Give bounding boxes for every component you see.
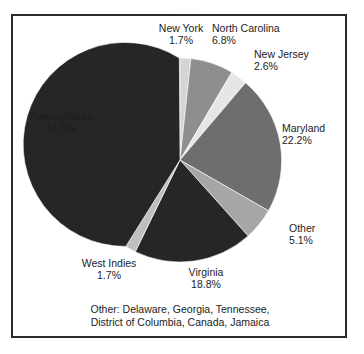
slice-label-north-carolina-value: 6.8% bbox=[212, 34, 304, 46]
slice-label-west-indies-value: 1.7% bbox=[66, 269, 152, 281]
slice-label-maryland: Maryland 22.2% bbox=[282, 122, 348, 147]
slice-label-maryland-name: Maryland bbox=[282, 122, 348, 134]
slice-label-virginia: Virginia 18.8% bbox=[170, 266, 242, 291]
chart-footnote-line-1: Other: Delaware, Georgia, Tennessee, bbox=[24, 303, 336, 316]
slice-label-west-indies-name: West Indies bbox=[66, 257, 152, 269]
slice-label-pennsylvania-name: Pennsylvania bbox=[16, 110, 106, 122]
slice-label-new-york-value: 1.7% bbox=[148, 34, 214, 46]
pie-slices bbox=[23, 42, 281, 262]
pie-chart-figure: ........ New York 1.7% North Carolina bbox=[0, 0, 364, 354]
slice-label-maryland-value: 22.2% bbox=[282, 134, 348, 146]
slice-label-virginia-value: 18.8% bbox=[170, 278, 242, 290]
slice-label-new-jersey: New Jersey 2.6% bbox=[254, 48, 334, 73]
slice-label-pennsylvania: Pennsylvania 41.0% bbox=[16, 110, 106, 135]
slice-label-new-york: New York 1.7% bbox=[148, 22, 214, 47]
chart-footnote: Other: Delaware, Georgia, Tennessee, Dis… bbox=[24, 303, 336, 328]
slice-label-other: Other 5.1% bbox=[289, 222, 345, 247]
slice-label-new-york-name: New York bbox=[148, 22, 214, 34]
slice-label-new-jersey-name: New Jersey bbox=[254, 48, 334, 60]
slice-label-new-jersey-value: 2.6% bbox=[254, 60, 334, 72]
chart-footnote-line-2: District of Columbia, Canada, Jamaica bbox=[24, 316, 336, 329]
slice-label-north-carolina: North Carolina 6.8% bbox=[212, 22, 304, 47]
slice-label-pennsylvania-value: 41.0% bbox=[16, 122, 106, 134]
slice-label-virginia-name: Virginia bbox=[170, 266, 242, 278]
slice-label-other-name: Other bbox=[289, 222, 345, 234]
slice-label-north-carolina-name: North Carolina bbox=[212, 22, 304, 34]
slice-label-west-indies: West Indies 1.7% bbox=[66, 257, 152, 282]
slice-label-other-value: 5.1% bbox=[289, 234, 345, 246]
